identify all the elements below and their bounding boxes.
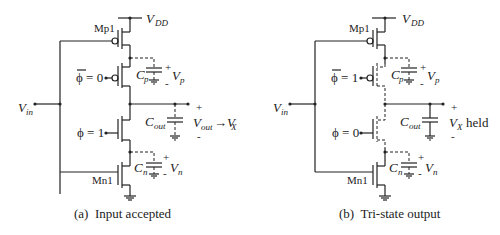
cn-sub: n (398, 167, 403, 177)
svg-text:-: - (197, 130, 201, 142)
circuit-figure: V DD Mp1 C p + - V p (0, 0, 500, 235)
vp-sub: p (179, 75, 185, 85)
phi-label: ϕ = 0 (332, 125, 359, 140)
vn-sub: n (433, 167, 438, 177)
mp1-label: Mp1 (349, 22, 370, 34)
svg-text:-: - (451, 130, 455, 142)
caption-a: (a) Input accepted (74, 206, 172, 221)
svg-text:+: + (420, 61, 426, 73)
vin-sub: in (281, 107, 289, 117)
panel-b-tri-state-output: V DD Mp1 C p + - V p (273, 11, 489, 221)
svg-text:+: + (196, 101, 202, 113)
vdd-sub: DD (410, 18, 424, 28)
phi-label: ϕ = 1 (77, 125, 104, 140)
vout-sub: out (201, 122, 213, 132)
svg-text:+: + (165, 61, 171, 73)
vn-sub: n (178, 167, 183, 177)
svg-text:-: - (163, 167, 167, 179)
vdd-sub: DD (154, 18, 168, 28)
phibar-label: ϕ = 0 (76, 70, 103, 85)
mp1-label: Mp1 (94, 22, 115, 34)
cout-sub: out (154, 121, 166, 131)
caption-b: (b) Tri-state output (339, 206, 441, 221)
cout-label: C (400, 114, 409, 129)
panel-a-input-accepted: V DD Mp1 C p + - V p (18, 11, 237, 221)
vp-sub: p (434, 75, 440, 85)
cp-sub: p (143, 74, 149, 84)
held-label: held (466, 115, 489, 130)
cp-sub: p (398, 74, 404, 84)
mn1-label: Mn1 (92, 174, 113, 186)
phibar-label: ϕ = 1 (331, 70, 358, 85)
svg-text:+: + (451, 101, 457, 113)
svg-text:-: - (418, 167, 422, 179)
cn-label: C (134, 160, 143, 175)
vx-sub: X (230, 122, 237, 132)
cn-label: C (389, 160, 398, 175)
cn-sub: n (143, 167, 148, 177)
svg-text:+: + (163, 151, 169, 163)
svg-text:-: - (420, 77, 424, 89)
mn1-label: Mn1 (347, 174, 368, 186)
cout-label: C (145, 114, 154, 129)
vin-sub: in (26, 107, 34, 117)
vx-sub: X (456, 122, 463, 132)
svg-text:+: + (418, 151, 424, 163)
cout-sub: out (409, 121, 421, 131)
svg-text:-: - (165, 77, 169, 89)
